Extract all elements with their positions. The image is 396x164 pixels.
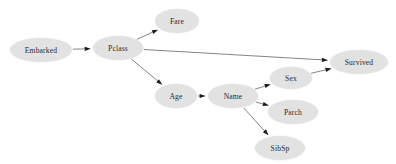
edge-sex-to-survived xyxy=(311,70,325,73)
edge-name-to-sibsp xyxy=(244,108,265,131)
node-survived[interactable]: Survived xyxy=(330,50,388,74)
node-fare[interactable]: Fare xyxy=(155,9,199,33)
edge-name-to-sex xyxy=(255,86,265,89)
arrowhead-name-to-parch xyxy=(262,102,269,106)
node-pclass[interactable]: Pclass xyxy=(93,36,143,60)
arrowhead-sex-to-survived xyxy=(325,68,332,72)
node-layer: EmbarkedPclassFareAgeNameSexParchSibSpSu… xyxy=(10,9,388,160)
edge-pclass-to-survived xyxy=(144,50,322,60)
node-parch[interactable]: Parch xyxy=(268,100,318,124)
node-label-survived: Survived xyxy=(345,58,374,67)
node-label-sex: Sex xyxy=(285,74,297,83)
arrowhead-pclass-to-survived xyxy=(322,58,328,62)
node-label-fare: Fare xyxy=(170,17,185,26)
dag-diagram: EmbarkedPclassFareAgeNameSexParchSibSpSu… xyxy=(0,0,396,164)
node-sibsp[interactable]: SibSp xyxy=(255,136,305,160)
arrowhead-name-to-sex xyxy=(264,84,271,88)
node-age[interactable]: Age xyxy=(155,84,197,108)
node-embarked[interactable]: Embarked xyxy=(10,38,72,62)
node-sex[interactable]: Sex xyxy=(270,67,312,89)
node-label-sibsp: SibSp xyxy=(271,144,290,153)
node-name[interactable]: Name xyxy=(208,84,258,108)
arrowhead-pclass-to-fare xyxy=(152,30,159,34)
arrowhead-embarked-to-pclass xyxy=(85,47,91,51)
node-label-pclass: Pclass xyxy=(108,44,128,53)
arrowhead-age-to-name xyxy=(200,94,206,98)
edge-name-to-parch xyxy=(256,102,263,104)
node-label-embarked: Embarked xyxy=(25,46,57,55)
node-label-age: Age xyxy=(169,92,183,101)
edge-pclass-to-fare xyxy=(137,32,153,39)
node-label-parch: Parch xyxy=(284,108,302,117)
node-label-name: Name xyxy=(224,92,243,101)
edge-pclass-to-age xyxy=(131,59,157,81)
